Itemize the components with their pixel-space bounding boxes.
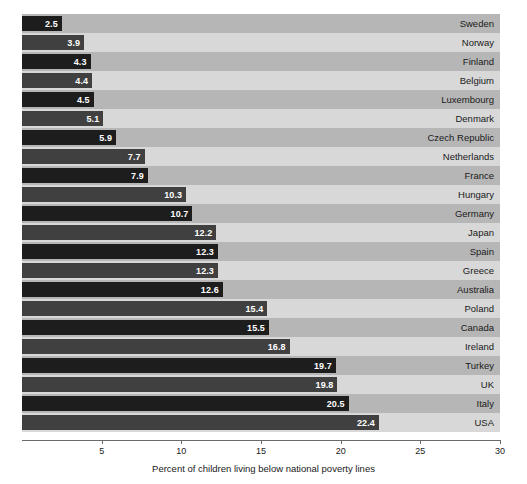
bar-value-label: 20.5 — [327, 399, 345, 408]
chart-row: 15.5Canada — [22, 318, 500, 337]
tick-label-20: 20 — [336, 446, 346, 456]
category-label: Poland — [464, 304, 494, 314]
bar: 10.3 — [22, 187, 186, 202]
chart-row: 4.4Belgium — [22, 71, 500, 90]
bar-value-label: 5.1 — [86, 114, 99, 123]
bar-value-label: 5.9 — [99, 133, 112, 142]
tick-label-15: 15 — [256, 446, 266, 456]
bar: 16.8 — [22, 339, 290, 354]
category-label: Sweden — [460, 19, 494, 29]
bar-value-label: 19.7 — [314, 361, 332, 370]
bar-value-label: 10.3 — [164, 190, 182, 199]
bar-value-label: 7.7 — [128, 152, 141, 161]
bar: 4.5 — [22, 92, 94, 107]
bar-value-label: 12.3 — [196, 247, 214, 256]
tick-label-30: 30 — [495, 446, 505, 456]
chart-row: 19.8UK — [22, 375, 500, 394]
chart-row: 22.4USA — [22, 413, 500, 432]
category-label: UK — [481, 380, 494, 390]
bar: 7.7 — [22, 149, 145, 164]
bar-value-label: 7.9 — [131, 171, 144, 180]
bar-value-label: 12.2 — [194, 228, 212, 237]
poverty-bar-chart: 2.5Sweden3.9Norway4.3Finland4.4Belgium4.… — [0, 0, 527, 484]
category-label: Italy — [477, 399, 494, 409]
category-label: Canada — [461, 323, 494, 333]
chart-row: 12.3Spain — [22, 242, 500, 261]
chart-row: 10.3Hungary — [22, 185, 500, 204]
bar: 7.9 — [22, 168, 148, 183]
bar-value-label: 19.8 — [316, 380, 334, 389]
category-label: Denmark — [455, 114, 494, 124]
plot-area: 2.5Sweden3.9Norway4.3Finland4.4Belgium4.… — [22, 14, 500, 432]
chart-row: 3.9Norway — [22, 33, 500, 52]
tick-mark-10 — [181, 440, 182, 444]
chart-row: 4.5Luxembourg — [22, 90, 500, 109]
bar: 12.2 — [22, 225, 216, 240]
category-label: Norway — [462, 38, 494, 48]
category-label: Spain — [470, 247, 494, 257]
bar: 12.3 — [22, 244, 218, 259]
chart-row: 5.9Czech Republic — [22, 128, 500, 147]
bar-value-label: 2.5 — [45, 19, 58, 28]
bar: 5.9 — [22, 130, 116, 145]
category-label: Japan — [468, 228, 494, 238]
bar: 19.8 — [22, 377, 337, 392]
bar: 22.4 — [22, 415, 379, 430]
chart-row: 2.5Sweden — [22, 14, 500, 33]
bar-value-label: 12.3 — [196, 266, 214, 275]
category-label: France — [464, 171, 494, 181]
bar-value-label: 12.6 — [201, 285, 219, 294]
bar: 2.5 — [22, 16, 62, 31]
category-label: Turkey — [465, 361, 494, 371]
category-label: Hungary — [458, 190, 494, 200]
bar-value-label: 4.4 — [75, 76, 88, 85]
tick-label-5: 5 — [99, 446, 104, 456]
tick-mark-30 — [500, 440, 501, 444]
bar-value-label: 10.7 — [171, 209, 189, 218]
bar-value-label: 4.3 — [74, 57, 87, 66]
chart-row: 16.8Ireland — [22, 337, 500, 356]
tick-mark-5 — [102, 440, 103, 444]
bar: 12.6 — [22, 282, 223, 297]
category-label: Australia — [457, 285, 494, 295]
chart-row: 20.5Italy — [22, 394, 500, 413]
bar: 15.5 — [22, 320, 269, 335]
bar-rows: 2.5Sweden3.9Norway4.3Finland4.4Belgium4.… — [22, 14, 500, 432]
bar: 3.9 — [22, 35, 84, 50]
chart-row: 12.3Greece — [22, 261, 500, 280]
bar-value-label: 15.4 — [245, 304, 263, 313]
chart-row: 5.1Denmark — [22, 109, 500, 128]
bar: 10.7 — [22, 206, 192, 221]
tick-mark-15 — [261, 440, 262, 444]
tick-mark-20 — [341, 440, 342, 444]
bar: 12.3 — [22, 263, 218, 278]
tick-mark-25 — [420, 440, 421, 444]
category-label: USA — [474, 418, 494, 428]
chart-row: 15.4Poland — [22, 299, 500, 318]
chart-row: 4.3Finland — [22, 52, 500, 71]
tick-label-10: 10 — [176, 446, 186, 456]
bar: 4.3 — [22, 54, 91, 69]
category-label: Luxembourg — [441, 95, 494, 105]
category-label: Belgium — [460, 76, 494, 86]
chart-row: 12.6Australia — [22, 280, 500, 299]
bar: 4.4 — [22, 73, 92, 88]
chart-row: 7.7Netherlands — [22, 147, 500, 166]
category-label: Germany — [455, 209, 494, 219]
bar-value-label: 15.5 — [247, 323, 265, 332]
category-label: Czech Republic — [427, 133, 494, 143]
chart-row: 10.7Germany — [22, 204, 500, 223]
category-label: Ireland — [465, 342, 494, 352]
bar-value-label: 16.8 — [268, 342, 286, 351]
bar-value-label: 22.4 — [357, 418, 375, 427]
category-label: Finland — [463, 57, 494, 67]
bar: 20.5 — [22, 396, 349, 411]
bar-value-label: 4.5 — [77, 95, 90, 104]
chart-row: 12.2Japan — [22, 223, 500, 242]
bar-value-label: 3.9 — [67, 38, 80, 47]
tick-label-25: 25 — [415, 446, 425, 456]
bar: 19.7 — [22, 358, 336, 373]
bar: 15.4 — [22, 301, 267, 316]
x-axis-title: Percent of children living below nationa… — [0, 463, 527, 474]
category-label: Greece — [463, 266, 494, 276]
